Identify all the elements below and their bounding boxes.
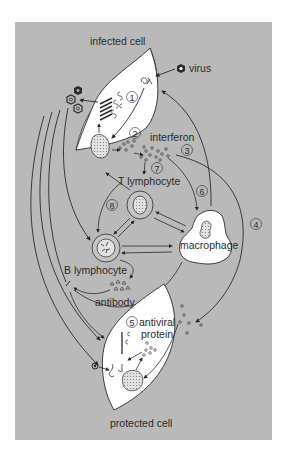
protein-label: protein [141,328,173,340]
t-lymphocyte-label: T lymphocyte [118,175,180,187]
svg-text:5: 5 [129,318,134,328]
svg-text:8: 8 [109,201,114,211]
svg-text:6: 6 [199,187,204,197]
protected-cell-label: protected cell [110,417,172,429]
virus-label: virus [189,62,211,74]
infected-cell-nucleus [91,134,109,158]
protected-cell-nucleus [122,370,142,390]
interferon-label: interferon [150,131,195,143]
b-lymphocyte-cell [92,234,120,262]
svg-text:4: 4 [253,220,258,230]
svg-text:3: 3 [184,146,189,156]
macrophage-label: macrophage [180,239,239,251]
svg-text:7: 7 [154,164,159,174]
t-lymphocyte-cell [127,191,153,219]
infected-cell-label: infected cell [90,35,145,47]
immune-response-diagram: infected cell virus 1 2 [0,0,283,452]
antiviral-label: antiviral [139,316,175,328]
b-lymphocyte-label: B lymphocyte [64,264,127,276]
svg-text:2: 2 [132,129,137,139]
svg-text:1: 1 [129,93,134,103]
